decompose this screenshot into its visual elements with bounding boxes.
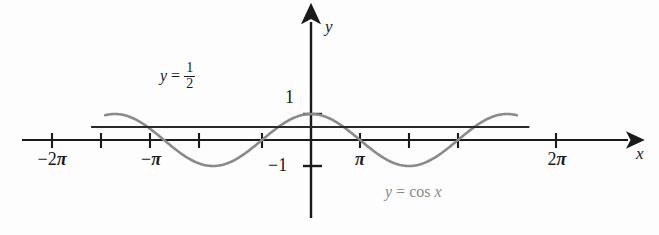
y-tick-label-1: 1 — [285, 88, 294, 106]
pi-glyph: π — [57, 149, 67, 169]
x-tick-label--2pi-text: −2 — [38, 149, 57, 169]
half-line-label-equals: = — [171, 67, 180, 84]
x-tick-label--pi-text: − — [141, 149, 151, 169]
x-tick-label-2pi-text: 2 — [548, 149, 557, 169]
x-tick-label-2pi: 2π — [530, 150, 584, 168]
y-tick-label--1: −1 — [268, 156, 287, 174]
pi-glyph: π — [355, 149, 365, 169]
cosine-label-fn: cos — [409, 183, 430, 200]
x-axis-label: x — [636, 145, 644, 162]
cosine-label-arg: x — [434, 183, 441, 200]
one-half-fraction: 1 2 — [184, 61, 195, 91]
x-tick-label--pi: −π — [124, 150, 178, 168]
cosine-label-lhs: y — [385, 183, 392, 200]
half-line-label: y = 1 2 — [160, 62, 195, 92]
cosine-label-equals: = — [396, 183, 405, 200]
x-tick-label-pi: π — [336, 150, 384, 168]
pi-glyph: π — [557, 149, 567, 169]
pi-glyph: π — [151, 149, 161, 169]
cosine-label: y = cos x — [385, 184, 442, 200]
x-tick-label--2pi: −2π — [22, 150, 82, 168]
y-axis-label: y — [325, 18, 333, 35]
half-line-label-lhs: y — [160, 67, 167, 84]
fraction-numerator: 1 — [184, 61, 195, 76]
cosine-graph-figure: y x −2π −π π 2π 1 −1 y = 1 2 y = cos x — [0, 0, 659, 235]
fraction-denominator: 2 — [184, 76, 195, 92]
